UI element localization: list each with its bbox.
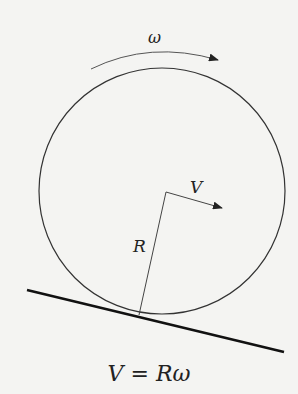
rotation-arc-arrow bbox=[91, 52, 218, 69]
equation: V = Rω bbox=[0, 361, 298, 386]
radius-label: R bbox=[132, 236, 146, 256]
equation-rhs-r: R bbox=[156, 361, 173, 386]
equation-lhs: V bbox=[108, 361, 124, 386]
inclined-surface-line bbox=[27, 290, 284, 352]
wheel-circle bbox=[39, 68, 285, 314]
rolling-wheel-diagram: ω R V V = Rω bbox=[0, 0, 298, 394]
diagram-canvas: ω R V bbox=[0, 0, 298, 394]
equation-rhs-omega: ω bbox=[172, 361, 190, 386]
omega-label: ω bbox=[148, 28, 161, 47]
equation-equals: = bbox=[130, 361, 148, 386]
velocity-label: V bbox=[190, 177, 204, 197]
